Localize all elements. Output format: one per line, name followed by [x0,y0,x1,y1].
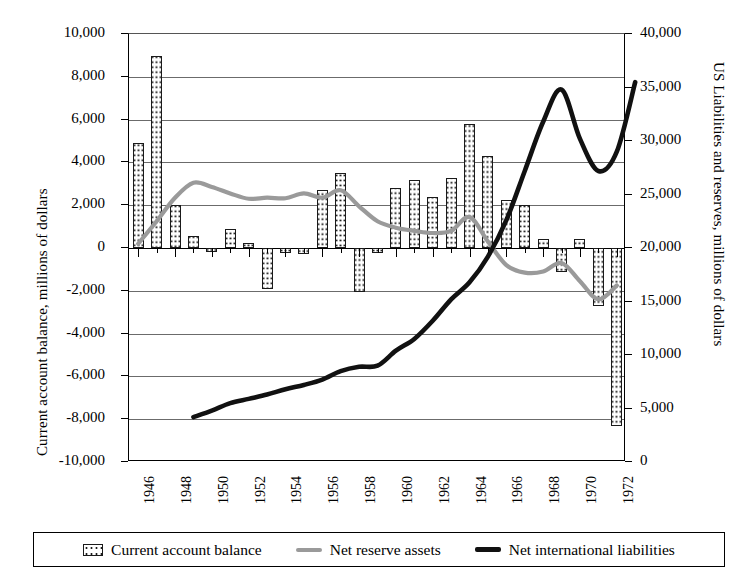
y-axis-left-tick-label: 6,000 [17,111,105,126]
y-axis-left-tickmark [121,161,128,162]
y-axis-left-tickmark [121,33,128,34]
y-axis-left-tickmark [121,247,128,248]
y-axis-right-tick-label: 5,000 [640,400,720,415]
x-axis-tickmark [322,248,323,257]
y-axis-right-tickmark [625,461,632,462]
y-axis-right-tickmark [625,194,632,195]
x-axis-tick-label: 1956 [326,476,342,504]
x-axis-tickmark [562,248,563,253]
x-axis-tick-label: 1966 [510,476,526,504]
y-axis-right-tickmark [625,33,632,34]
x-axis-tick-label: 1950 [216,476,232,504]
x-axis-tick-label: 1960 [400,476,416,504]
x-axis-tickmark [433,248,434,257]
y-axis-right-tickmark [625,354,632,355]
x-axis-tick-label: 1964 [474,476,490,504]
y-axis-left-tick-label: 8,000 [17,68,105,83]
legend-item-net-reserve-assets: Net reserve assets [296,541,441,559]
x-axis-tickmark [598,248,599,253]
legend-item-net-international-liabilities: Net international liabilities [475,541,675,559]
x-axis-tickmark [267,248,268,253]
dotted-bar-swatch-icon [83,544,103,556]
y-axis-right-tickmark [625,408,632,409]
x-axis-tickmark [396,248,397,257]
x-axis-tickmark [341,248,342,253]
chart-legend: Current account balance Net reserve asse… [33,532,725,567]
y-axis-left-tick-label: -6,000 [17,367,105,382]
x-axis-tickmark [157,248,158,253]
y-axis-left-tick-label: -2,000 [17,282,105,297]
y-axis-left-tick-label: -8,000 [17,410,105,425]
x-axis-tickmark [414,248,415,253]
y-axis-right-tick-label: 25,000 [640,186,720,201]
y-axis-left-tick-label: 10,000 [17,25,105,40]
y-axis-right-tick-label: 30,000 [640,132,720,147]
x-axis-tick-label: 1948 [179,476,195,504]
x-axis-tick-label: 1970 [584,476,600,504]
y-axis-left-tickmark [121,204,128,205]
x-axis-tickmark [285,248,286,257]
y-axis-right-tick-label: 35,000 [640,79,720,94]
x-axis-tickmark [249,248,250,257]
y-axis-right-tick-label: 40,000 [640,25,720,40]
gray-line-swatch-icon [296,548,322,552]
x-axis-tickmark [451,248,452,253]
y-axis-left-tick-label: 4,000 [17,153,105,168]
x-axis-tick-label: 1972 [621,476,637,504]
y-axis-right-tickmark [625,87,632,88]
y-axis-right-tick-label: 10,000 [640,346,720,361]
y-axis-left-tick-label: 0 [17,239,105,254]
x-axis-tickmark [543,248,544,257]
y-axis-left-tickmark [121,76,128,77]
y-axis-left-tickmark [121,290,128,291]
x-axis-tickmark [175,248,176,257]
x-axis-tickmark [193,248,194,253]
x-axis-tick-label: 1962 [437,476,453,504]
y-axis-left-tickmark [121,333,128,334]
legend-label: Current account balance [111,541,262,559]
x-axis-tickmark [525,248,526,253]
x-axis-tickmark [378,248,379,253]
y-axis-left-tickmark [121,418,128,419]
y-axis-left-tickmark [121,119,128,120]
x-axis-tickmark [230,248,231,253]
y-axis-left-tick-label: 2,000 [17,196,105,211]
x-axis-tick-label: 1958 [363,476,379,504]
chart-figure: Current account balance, millions of dol… [0,0,756,585]
y-axis-right-tick-label: 0 [640,453,720,468]
x-axis-tickmark [617,248,618,257]
net-reserve-assets-line [138,182,617,299]
x-axis-tick-label: 1954 [289,476,305,504]
y-axis-right-tickmark [625,247,632,248]
x-axis-tickmark [580,248,581,257]
x-axis-tickmark [212,248,213,257]
x-axis-tick-label: 1946 [142,476,158,504]
y-axis-left-tick-label: -4,000 [17,325,105,340]
plot-area [128,33,625,461]
x-axis-tick-label: 1952 [253,476,269,504]
y-axis-left-tickmark [121,461,128,462]
x-axis-tick-label: 1968 [547,476,563,504]
black-line-swatch-icon [475,547,501,552]
x-axis-tickmark [506,248,507,257]
y-axis-left-tick-label: -10,000 [17,453,105,468]
y-axis-left-tickmark [121,375,128,376]
x-axis-tickmark [470,248,471,257]
y-axis-right-tickmark [625,140,632,141]
x-axis-tickmark [304,248,305,253]
legend-item-current-account-balance: Current account balance [83,541,262,559]
y-axis-right-tick-label: 20,000 [640,239,720,254]
y-axis-right-tickmark [625,301,632,302]
y-axis-right-tick-label: 15,000 [640,293,720,308]
x-axis-tickmark [359,248,360,257]
legend-label: Net international liabilities [509,541,675,559]
legend-label: Net reserve assets [330,541,441,559]
x-axis-tickmark [488,248,489,253]
x-axis-tickmark [138,248,139,257]
